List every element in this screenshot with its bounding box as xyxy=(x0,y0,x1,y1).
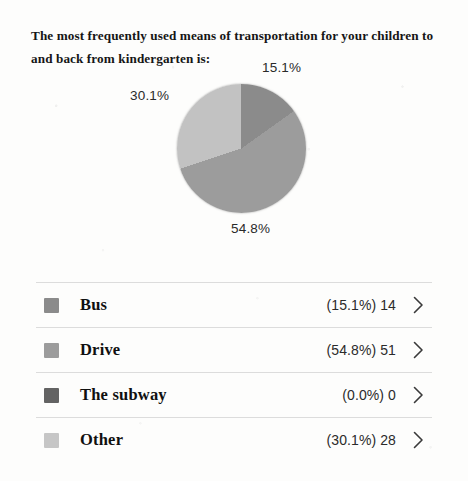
chevron-right-icon[interactable] xyxy=(413,296,424,314)
chevron-right-icon[interactable] xyxy=(413,431,424,449)
pie-chart: 15.1% 30.1% 54.8% xyxy=(0,60,468,275)
legend-row[interactable]: The subway(0.0%) 0 xyxy=(36,373,432,417)
chevron-right-icon[interactable] xyxy=(413,341,424,359)
legend-row[interactable]: Other(30.1%) 28 xyxy=(36,418,432,462)
color-swatch-icon xyxy=(44,298,59,313)
pie-slices xyxy=(177,84,306,213)
legend-separator xyxy=(36,282,432,283)
legend-row-label: Bus xyxy=(80,295,107,315)
pie-graphic xyxy=(177,84,306,213)
pie-label-bus: 15.1% xyxy=(262,60,301,75)
legend-row-value: (54.8%) 51 xyxy=(327,342,396,358)
color-swatch-icon xyxy=(44,343,59,358)
pie-label-other: 30.1% xyxy=(130,88,169,103)
chevron-right-icon[interactable] xyxy=(413,386,424,404)
legend-row-label: The subway xyxy=(80,385,167,405)
color-swatch-icon xyxy=(44,433,59,448)
legend-separator xyxy=(36,417,432,418)
legend-row-label: Other xyxy=(80,430,123,450)
legend-row-label: Drive xyxy=(80,340,120,360)
legend-separator xyxy=(36,327,432,328)
legend-list: Bus(15.1%) 14Drive(54.8%) 51The subway(0… xyxy=(36,282,432,462)
pie-label-drive: 54.8% xyxy=(231,221,270,236)
legend-row-value: (0.0%) 0 xyxy=(342,387,396,403)
legend-row-value: (15.1%) 14 xyxy=(327,297,396,313)
legend-row-value: (30.1%) 28 xyxy=(327,432,396,448)
legend-row[interactable]: Bus(15.1%) 14 xyxy=(36,283,432,327)
legend-separator xyxy=(36,372,432,373)
legend-row[interactable]: Drive(54.8%) 51 xyxy=(36,328,432,372)
color-swatch-icon xyxy=(44,388,59,403)
